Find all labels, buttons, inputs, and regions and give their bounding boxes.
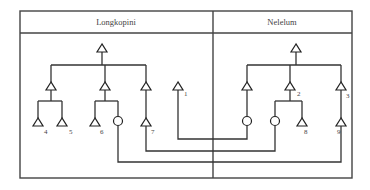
group-header-nelelum: Nelelum: [267, 17, 297, 27]
female-icon: [271, 117, 280, 126]
female-icon: [114, 117, 123, 126]
label-6: 6: [100, 128, 104, 136]
label-3: 3: [346, 92, 350, 100]
male-icon: [242, 82, 252, 90]
label-7: 7: [151, 128, 155, 136]
male-icon: [46, 82, 56, 90]
kinship-diagram: Longkopini Nelelum 4 5 6 7: [0, 0, 370, 190]
male-icon-5: [57, 118, 67, 126]
male-icon-6: [90, 118, 100, 126]
male-icon-2: [285, 82, 295, 90]
male-icon: [291, 44, 301, 52]
label-1: 1: [184, 90, 188, 98]
male-icon-3: [336, 82, 346, 90]
nelelum-tree: 2 3 8 9: [242, 44, 350, 136]
male-icon-7: [141, 118, 151, 126]
male-icon: [97, 44, 107, 52]
label-4: 4: [44, 128, 48, 136]
label-8: 8: [304, 128, 308, 136]
group-header-longkopini: Longkopini: [96, 17, 136, 27]
male-icon-8: [297, 118, 307, 126]
label-5: 5: [69, 128, 73, 136]
male-icon-9: [336, 118, 346, 126]
male-icon-4: [33, 118, 43, 126]
male-icon-1: [173, 82, 183, 90]
male-icon: [141, 82, 151, 90]
female-icon: [243, 117, 252, 126]
label-2: 2: [297, 90, 301, 98]
male-icon: [100, 82, 110, 90]
longkopini-tree: 4 5 6 7 1: [33, 44, 188, 136]
